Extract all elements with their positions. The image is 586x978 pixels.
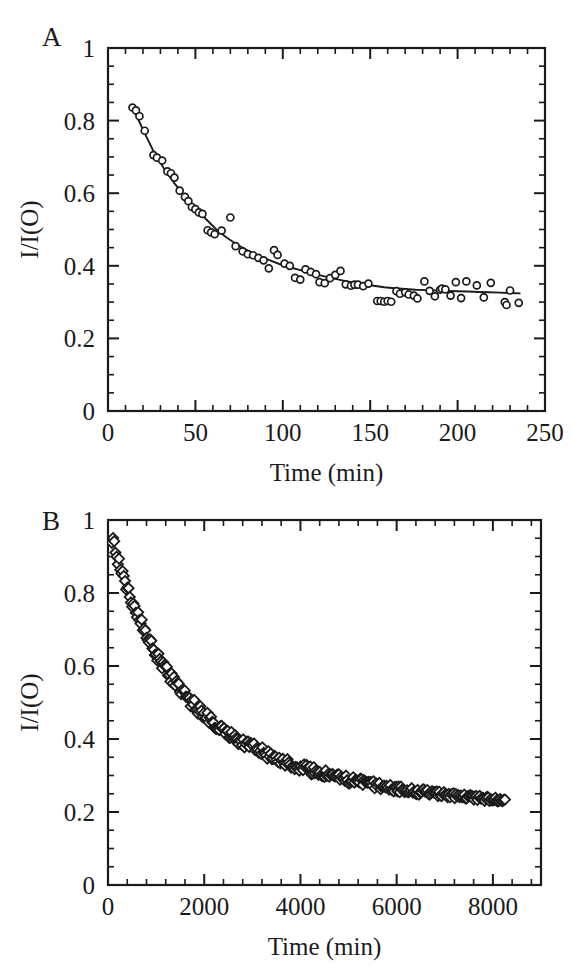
data-point-circle — [480, 294, 487, 301]
x-tick-label: 100 — [264, 419, 302, 446]
x-tick-label: 8000 — [468, 893, 518, 920]
data-point-circle — [473, 282, 480, 289]
data-point-circle — [159, 157, 166, 164]
x-tick-label: 2000 — [179, 893, 229, 920]
data-point-circle — [274, 251, 281, 258]
y-tick-label: 0.6 — [64, 180, 95, 207]
y-tick-label: 0.4 — [64, 726, 96, 753]
y-axis-title: I/I(O) — [16, 200, 44, 258]
x-axis-title: Time (min) — [270, 459, 384, 487]
x-axis-title: Time (min) — [268, 933, 382, 961]
panel-b-plot: 0200040006000800000.20.40.60.81Time (min… — [0, 488, 586, 978]
y-tick-label: 0.8 — [64, 580, 95, 607]
data-point-circle — [232, 243, 239, 250]
data-point-circle — [211, 231, 218, 238]
y-tick-label: 0.6 — [64, 653, 95, 680]
x-axis-ticks — [108, 520, 531, 885]
y-tick-label: 0.2 — [64, 325, 95, 352]
y-tick-label: 0.8 — [64, 108, 95, 135]
figure-container: A 05010015020025000.20.40.60.81Time (min… — [0, 0, 586, 978]
panel-b: B 0200040006000800000.20.40.60.81Time (m… — [0, 488, 586, 978]
y-tick-label: 1 — [83, 35, 96, 62]
y-tick-label: 0 — [83, 872, 96, 899]
data-point-circle — [503, 302, 510, 309]
data-point-circle — [286, 262, 293, 269]
data-point-circle — [265, 265, 272, 272]
data-point-circle — [447, 292, 454, 299]
x-tick-label: 4000 — [275, 893, 325, 920]
data-point-circle — [218, 227, 225, 234]
plot-frame — [108, 48, 545, 411]
panel-a: A 05010015020025000.20.40.60.81Time (min… — [0, 0, 586, 490]
y-tick-label: 0 — [83, 398, 96, 425]
plot-frame — [108, 520, 541, 885]
data-point-circle — [452, 279, 459, 286]
data-point-circle — [297, 276, 304, 283]
panel-a-plot: 05010015020025000.20.40.60.81Time (min)I… — [0, 0, 586, 490]
data-point-circle — [421, 278, 428, 285]
y-axis-ticks — [108, 520, 541, 885]
data-point-circle — [463, 278, 470, 285]
data-point-circle — [507, 287, 514, 294]
data-layer — [129, 104, 522, 308]
x-tick-label: 150 — [351, 419, 389, 446]
x-tick-label: 0 — [102, 419, 115, 446]
data-point-circle — [515, 299, 522, 306]
data-point-circle — [458, 295, 465, 302]
x-tick-label: 0 — [102, 893, 115, 920]
data-point-circle — [337, 267, 344, 274]
y-axis-title: I/I(O) — [16, 673, 44, 731]
x-tick-label: 250 — [526, 419, 564, 446]
y-tick-label: 0.2 — [64, 799, 95, 826]
data-point-circle — [365, 280, 372, 287]
x-tick-label: 50 — [183, 419, 208, 446]
svg-a-root: 05010015020025000.20.40.60.81Time (min)I… — [16, 35, 564, 487]
data-point-circle — [431, 293, 438, 300]
data-point-circle — [313, 271, 320, 278]
y-axis-ticks — [108, 48, 545, 411]
data-point-circle — [171, 174, 178, 181]
data-point-circle — [199, 210, 206, 217]
data-point-circle — [227, 214, 234, 221]
data-point-circle — [388, 298, 395, 305]
data-point-circle — [176, 187, 183, 194]
data-point-circle — [487, 279, 494, 286]
data-point-circle — [442, 286, 449, 293]
x-axis-ticks — [108, 48, 545, 411]
y-tick-label: 1 — [83, 507, 96, 534]
data-point-circle — [260, 257, 267, 264]
x-tick-label: 200 — [439, 419, 477, 446]
data-point-circle — [136, 113, 143, 120]
data-point-circle — [414, 295, 421, 302]
data-layer — [107, 533, 510, 807]
x-tick-label: 6000 — [372, 893, 422, 920]
y-tick-label: 0.4 — [64, 253, 96, 280]
svg-b-root: 0200040006000800000.20.40.60.81Time (min… — [16, 507, 541, 961]
data-point-circle — [141, 127, 148, 134]
